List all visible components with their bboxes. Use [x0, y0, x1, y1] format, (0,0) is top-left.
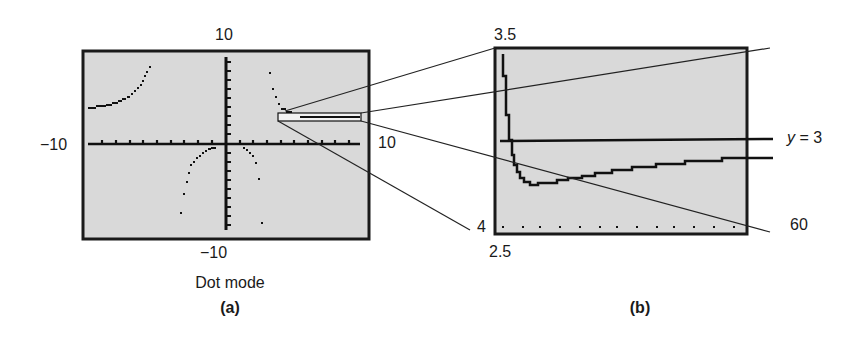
- panel-b-xmin-label: 4: [477, 219, 486, 235]
- panel-b-asymptote-label: y = 3: [787, 130, 822, 146]
- asymptote-variable: y: [787, 129, 795, 146]
- figure-graphics: [0, 0, 868, 339]
- panel-b-ymax-label: 3.5: [494, 27, 516, 43]
- panel-b-caption: (b): [610, 300, 670, 316]
- panel-a-mode-caption: Dot mode: [180, 275, 280, 291]
- asymptote-value: = 3: [795, 129, 822, 146]
- panel-a-xmin-label: −10: [40, 137, 67, 153]
- panel-b-ymin-label: 2.5: [489, 244, 511, 260]
- panel-b-screen: [495, 48, 773, 234]
- panel-a-ymin-label: −10: [200, 245, 227, 261]
- panel-b-xmax-label: 60: [790, 217, 808, 233]
- panel-a-screen: [83, 51, 369, 239]
- panel-a-ymax-label: 10: [215, 27, 233, 43]
- panel-a-xmax-label: 10: [378, 135, 396, 151]
- panel-a-caption: (a): [200, 300, 260, 316]
